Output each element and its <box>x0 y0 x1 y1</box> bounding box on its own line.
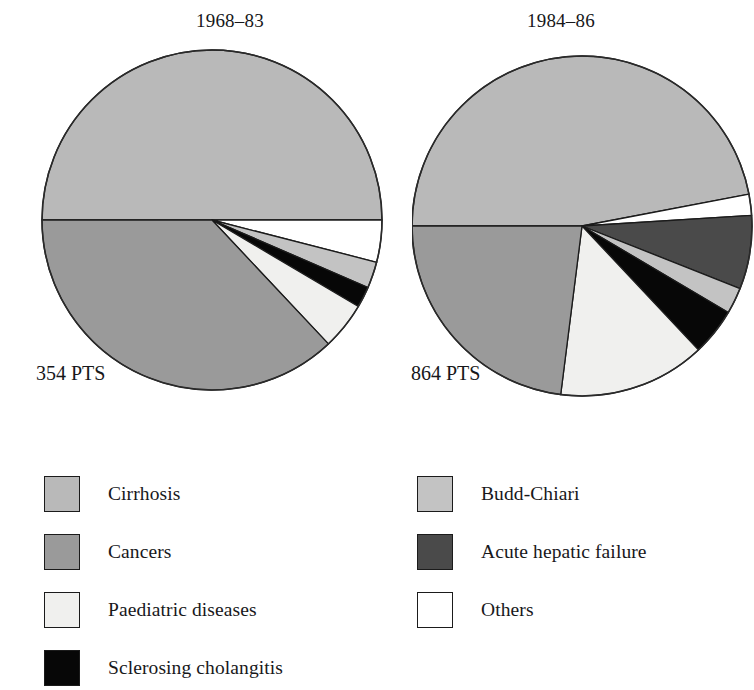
legend-column-left: CirrhosisCancersPaediatric diseasesScler… <box>44 465 283 690</box>
pie-chart-1968-83 <box>40 48 384 392</box>
legend-item-cancers: Cancers <box>44 523 283 581</box>
legend-item-sclerosing-cholangitis: Sclerosing cholangitis <box>44 639 283 690</box>
legend-item-budd-chiari: Budd-Chiari <box>417 465 647 523</box>
legend-item-paediatric-diseases: Paediatric diseases <box>44 581 283 639</box>
legend-label-cancers: Cancers <box>108 541 172 563</box>
legend-column-right: Budd-ChiariAcute hepatic failureOthers <box>417 465 647 639</box>
pie-title-left: 1968–83 <box>196 10 264 32</box>
patient-count-right: 864 PTS <box>411 362 480 385</box>
legend-swatch-budd-chiari <box>417 476 453 512</box>
legend-swatch-acute-hepatic-failure <box>417 534 453 570</box>
legend-swatch-cirrhosis <box>44 476 80 512</box>
legend-item-acute-hepatic-failure: Acute hepatic failure <box>417 523 647 581</box>
pie-slice-cirrhosis <box>412 56 749 226</box>
legend-label-sclerosing-cholangitis: Sclerosing cholangitis <box>108 657 283 679</box>
legend-label-paediatric-diseases: Paediatric diseases <box>108 599 257 621</box>
pie-slice-cirrhosis <box>42 50 382 220</box>
legend-label-others: Others <box>481 599 534 621</box>
legend-swatch-paediatric-diseases <box>44 592 80 628</box>
pie-title-right: 1984–86 <box>527 10 595 32</box>
legend-label-cirrhosis: Cirrhosis <box>108 483 180 505</box>
legend-item-others: Others <box>417 581 647 639</box>
legend-label-acute-hepatic-failure: Acute hepatic failure <box>481 541 647 563</box>
pie-chart-1984-86 <box>412 48 754 404</box>
legend-swatch-others <box>417 592 453 628</box>
legend-label-budd-chiari: Budd-Chiari <box>481 483 580 505</box>
patient-count-left: 354 PTS <box>36 362 105 385</box>
legend-swatch-sclerosing-cholangitis <box>44 650 80 686</box>
legend-swatch-cancers <box>44 534 80 570</box>
legend-item-cirrhosis: Cirrhosis <box>44 465 283 523</box>
